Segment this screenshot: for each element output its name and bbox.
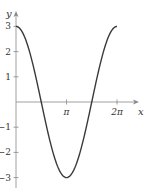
y-tick-label: −1 <box>0 122 11 132</box>
y-tick-label: 1 <box>5 72 11 82</box>
x-axis-label: x <box>138 106 144 117</box>
y-tick-label: 2 <box>5 47 11 57</box>
x-tick-label: π <box>63 107 71 117</box>
y-tick-label: −2 <box>0 147 11 157</box>
axes <box>14 11 140 188</box>
y-tick-label: 3 <box>5 21 11 31</box>
x-tick-label: 2π <box>110 107 124 117</box>
cosine-chart: 321−1−2−3 π2π y x <box>0 0 144 190</box>
y-axis-label: y <box>5 8 12 19</box>
y-tick-label: −3 <box>0 173 11 183</box>
